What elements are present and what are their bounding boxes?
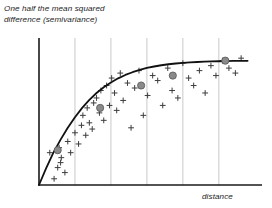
cross-marker: [91, 100, 97, 106]
cross-marker: [68, 150, 74, 156]
cross-marker: [155, 78, 161, 84]
bin-markers-group: [54, 57, 229, 154]
cross-marker: [232, 70, 238, 76]
cross-marker: [165, 65, 171, 71]
cross-marker: [125, 80, 131, 86]
bin-average-marker: [54, 147, 61, 154]
cross-marker: [186, 75, 192, 81]
cross-marker: [145, 93, 151, 99]
cross-marker: [197, 68, 203, 74]
cross-marker: [213, 73, 219, 79]
cross-marker: [72, 130, 78, 136]
plot-area: [0, 0, 272, 208]
cross-marker: [175, 95, 181, 101]
model-curve-group: [39, 61, 248, 185]
cross-marker: [55, 165, 61, 171]
cross-marker: [51, 176, 57, 182]
cross-marker: [160, 103, 166, 109]
cross-markers-group: [47, 55, 244, 181]
cross-marker: [76, 141, 82, 147]
cross-marker: [107, 103, 113, 109]
cross-marker: [132, 85, 138, 91]
cross-marker: [191, 83, 197, 89]
cross-marker: [86, 120, 92, 126]
cross-marker: [83, 132, 89, 138]
cross-marker: [169, 88, 175, 94]
model-curve: [39, 61, 248, 185]
cross-marker: [150, 73, 156, 79]
cross-marker: [114, 107, 120, 113]
x-axis-title: distance: [202, 192, 268, 203]
cross-marker: [226, 65, 232, 71]
cross-marker: [79, 122, 85, 128]
cross-marker: [208, 63, 214, 69]
cross-marker: [58, 155, 64, 161]
cross-marker: [101, 117, 107, 123]
bin-average-marker: [222, 57, 229, 64]
cross-marker: [117, 70, 123, 76]
cross-marker: [140, 112, 146, 118]
cross-marker: [58, 160, 64, 166]
bin-average-marker: [169, 72, 176, 79]
cross-marker: [202, 90, 208, 96]
cross-marker: [128, 125, 134, 131]
semivariogram-figure: One half the mean squared difference (se…: [0, 0, 272, 208]
cross-marker: [112, 90, 118, 96]
cross-marker: [89, 126, 95, 132]
bin-average-marker: [138, 82, 145, 89]
cross-marker: [62, 170, 68, 176]
gridlines-group: [75, 38, 219, 185]
cross-marker: [65, 139, 71, 145]
cross-marker: [120, 98, 126, 104]
bin-average-marker: [97, 104, 104, 111]
cross-marker: [80, 112, 86, 118]
